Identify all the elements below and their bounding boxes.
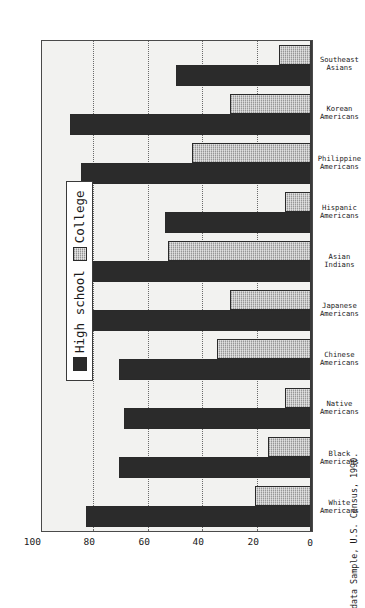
value-tick-label: 20 [247,537,258,548]
bar-high-school [118,458,311,479]
bar-college [268,437,312,458]
bar-college [192,143,312,164]
plot-area: High school College [41,40,313,532]
bar-high-school [124,409,312,430]
category-axis-labels: White AmericansBlack AmericansNative Ame… [317,40,333,532]
source-caption-text: Source: 1% Public Use Microdata Sample, … [349,453,359,608]
bar-high-school [165,213,312,234]
value-tick-label: 60 [138,537,149,548]
chart-figure: 100806040200 High school College White A… [33,24,333,584]
category-label: Korean Americans [317,89,333,138]
category-label: Chinese Americans [317,335,333,384]
bar-college [230,94,312,115]
category-label: Philippine Americans [317,138,333,187]
category-label: Hispanic Americans [317,188,333,237]
bar-college [216,339,311,360]
category-label-text: Asian Indians [324,253,354,270]
source-caption: Source: 1% Public Use Microdata Sample, … [345,274,363,604]
legend-item-college: College [72,191,87,262]
category-label-text: Hispanic Americans [319,204,358,221]
category-label: Black Americans [317,434,333,483]
value-tick-label: 0 [307,537,313,548]
bar-high-school [86,507,312,528]
bar-college [284,388,311,409]
bar-high-school [80,164,311,185]
bar-group [42,41,312,90]
legend-swatch-high-school [72,357,86,371]
category-label: Southeast Asians [317,40,333,89]
baseline-axis [310,41,312,531]
bar-high-school [176,66,312,87]
legend-item-high-school: High school [72,270,87,371]
bar-college [254,486,311,507]
category-label: Native Americans [317,384,333,433]
legend-swatch-college [72,247,86,261]
value-tick-label: 100 [23,537,40,548]
bar-group [42,482,312,531]
legend-label-college: College [72,191,87,244]
legend: High school College [66,181,93,381]
bar-high-school [88,262,311,283]
category-label: White Americans [317,483,333,532]
bar-college [230,290,312,311]
bar-high-school [118,360,311,381]
value-tick-label: 80 [83,537,94,548]
category-label: Japanese Americans [317,286,333,335]
bar-college [167,241,311,262]
category-label-text: Southeast Asians [319,56,358,73]
value-axis-ticks: 100806040200 [41,536,313,584]
category-label-text: Philippine Americans [317,155,360,172]
value-tick-label: 40 [192,537,203,548]
legend-label-high-school: High school [72,270,87,353]
category-label: Asian Indians [317,237,333,286]
bar-group [42,90,312,139]
bar-group [42,384,312,433]
bar-high-school [69,115,311,136]
bar-college [279,45,312,66]
bar-group [42,433,312,482]
bar-high-school [69,311,311,332]
bar-college [284,192,311,213]
category-label-text: Korean Americans [319,105,358,122]
